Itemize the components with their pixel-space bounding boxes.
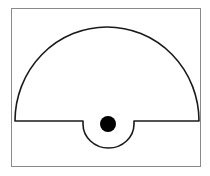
diagram-canvas xyxy=(0,0,210,176)
center-dot xyxy=(100,116,116,132)
